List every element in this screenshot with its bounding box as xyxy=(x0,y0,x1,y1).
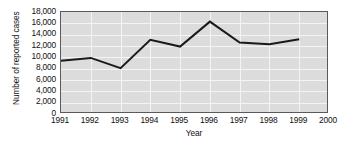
y-axis-tick-label: 2,000 xyxy=(14,97,56,105)
x-axis-tick-labels: 1991199219931994199519961997199819992000 xyxy=(0,115,344,127)
y-axis-tick-label: 14,000 xyxy=(14,29,56,37)
y-axis-tick-label: 4,000 xyxy=(14,86,56,94)
y-axis-tick-label: 18,000 xyxy=(14,7,56,15)
y-axis-tick-labels: 18,00016,00014,00012,00010,0008,0006,000… xyxy=(14,11,56,113)
line-chart-figure: Number of reported cases 18,00016,00014,… xyxy=(0,0,344,149)
y-axis-tick-label: 16,000 xyxy=(14,18,56,26)
y-axis-tick-label: 6,000 xyxy=(14,75,56,83)
plot-area xyxy=(60,11,328,113)
y-axis-tick-label: 12,000 xyxy=(14,41,56,49)
y-axis-tick-label: 10,000 xyxy=(14,52,56,60)
series-line xyxy=(61,22,299,68)
x-axis-tick-label: 2000 xyxy=(308,115,344,125)
y-axis-tick-label: 8,000 xyxy=(14,63,56,71)
data-series-layer xyxy=(61,12,327,112)
series-svg xyxy=(61,12,328,113)
x-axis-title: Year xyxy=(60,128,328,138)
